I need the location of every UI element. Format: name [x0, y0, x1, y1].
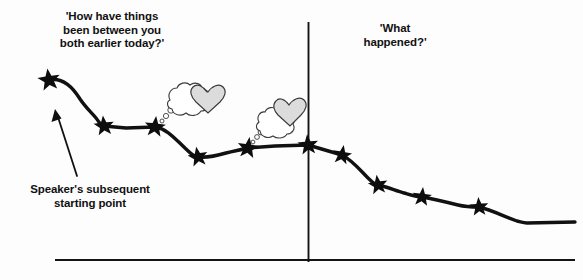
caption-question-right: 'What happened?': [330, 22, 460, 49]
star-marker: [367, 173, 389, 194]
thought-bubble-1: [160, 83, 225, 123]
thought-bubble-2: [251, 98, 306, 144]
caption-speaker-starting-point: Speaker's subsequent starting point: [6, 183, 174, 210]
caption-question-left: 'How have things been between you both e…: [42, 10, 182, 51]
star-marker: [469, 196, 489, 215]
speaker-starting-point-arrow: [52, 109, 78, 176]
figure-canvas: 'How have things been between you both e…: [0, 0, 583, 280]
